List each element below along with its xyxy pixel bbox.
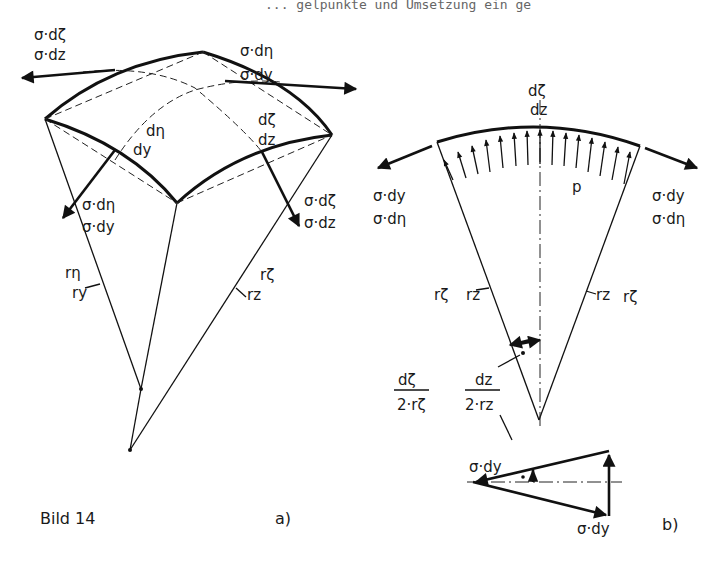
label-force-tr-1: σ·dη [240,42,273,60]
label-triangle-top: σ·dy [469,458,502,476]
label-radius-left-1: rη [65,264,81,282]
label-radius-b-left-1: rζ [434,286,448,304]
fraction-right-num: dz [475,371,493,389]
label-force-bl-2: σ·dy [82,218,115,236]
label-arc-2: dz [530,101,548,119]
fraction-left-num: dζ [398,371,416,389]
label-radius-left-2: ry [72,284,87,302]
figure-caption: Bild 14 [40,509,95,528]
label-pressure: p [572,178,582,196]
label-force-left-1: σ·dy [373,187,406,205]
figure-canvas: ... gelpunkte und Umsetzung ein ge σ·dζ … [0,0,727,569]
label-force-br-1: σ·dζ [304,192,336,210]
label-radius-b-left-2: rz [466,286,480,304]
label-force-right-2: σ·dη [652,210,685,228]
force-arrow-right [645,148,697,168]
label-radius-right-2: rz [247,286,261,304]
label-edge-left-2: dy [133,141,152,159]
label-force-right-1: σ·dy [652,187,685,205]
panel-b-label: b) [662,515,678,534]
force-arrow-top-left [22,70,115,78]
force-arrow-left [378,146,432,168]
label-force-tl-2: σ·dz [34,46,66,64]
label-radius-right-1: rζ [260,266,274,284]
header-fragment: ... gelpunkte und Umsetzung ein ge [265,0,531,12]
fraction-right-den: 2·rz [465,396,493,414]
label-triangle-bottom: σ·dy [577,520,610,538]
label-edge-right-2: dz [258,131,276,149]
label-force-left-2: σ·dη [373,210,406,228]
label-force-bl-1: σ·dη [82,196,115,214]
panel-a-label: a) [275,509,291,528]
label-radius-b-right-2: rζ [623,288,637,306]
sector-arc [437,127,640,146]
label-force-tr-2: σ·dy [240,66,273,84]
label-edge-left-1: dη [146,122,165,140]
fraction-left-den: 2·rζ [397,396,426,414]
label-force-br-2: σ·dz [304,214,336,232]
pressure-arrows [444,130,630,184]
panel-a-shell-element [22,52,356,452]
label-arc-1: dζ [528,82,546,100]
label-force-tl-1: σ·dζ [34,26,66,44]
panel-b-sector [378,100,697,440]
label-edge-right-1: dζ [258,111,276,129]
label-radius-b-right-1: rz [596,286,610,304]
